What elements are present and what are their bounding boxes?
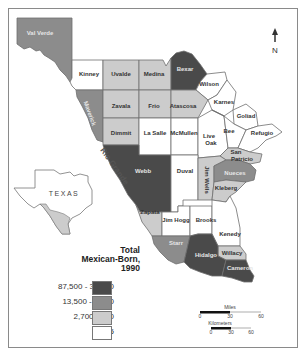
label-atascosa: Atascosa [170,103,197,109]
label-jim-hogg: Jim Hogg [162,217,190,223]
label-jim-wells: Jim Wells [204,166,210,194]
label-refugio: Refugio [251,130,274,136]
scale-km-tick-0: 0 [210,329,213,335]
north-label: N [272,46,278,55]
county-cameron[interactable] [222,260,254,282]
label-starr: Starr [169,240,184,246]
label-hidalgo: Hidalgo [195,252,217,258]
label-cameron: Cameron [227,265,253,271]
scale-km-tick-1: 30 [228,329,234,335]
county-map: Val Verde Kinney Uvalde Medina Bexar Wil… [0,0,304,360]
label-san-patricio-2: Patricio [231,156,253,162]
scale-miles-tick-1: 30 [227,313,233,319]
legend-swatch-2 [92,311,112,325]
county-val-verde[interactable] [17,18,72,83]
label-val-verde: Val Verde [27,30,54,36]
legend-swatch-3 [92,326,112,340]
scale-miles-tick-2: 60 [258,313,264,319]
county-duval[interactable] [171,155,198,212]
scale-bar: Miles 0 30 60 Kilometers 0 30 60 [199,304,264,335]
label-live-oak-1: Live [203,133,216,139]
legend-swatch-0 [92,281,112,295]
label-willacy: Willacy [222,250,243,256]
scale-km-tick-2: 60 [248,329,254,335]
label-kinney: Kinney [79,71,100,77]
scale-miles-label: Miles [224,304,236,310]
legend-title: Total Mexican-Born, 1990 [60,246,140,273]
label-karnes: Karnes [214,99,235,105]
label-wilson: Wilson [199,81,219,87]
label-nueces: Nueces [224,170,246,176]
label-live-oak-2: Oak [205,140,217,146]
legend-swatch-1 [92,296,112,310]
label-mcmullen: McMullen [170,130,198,136]
label-san-patricio-1: San [230,149,241,155]
county-la-salle[interactable] [139,118,171,155]
label-brooks: Brooks [196,217,217,223]
texas-inset: TEXAS [14,170,92,234]
label-goliad: Goliad [237,113,256,119]
inset-label: TEXAS [49,190,79,197]
label-kenedy: Kenedy [219,231,241,237]
legend-title-line3: 1990 [60,264,140,273]
north-arrow-icon: N [272,28,278,55]
label-uvalde: Uvalde [111,71,131,77]
scale-km-label: Kilometers [208,320,232,326]
label-kleberg: Kleberg [215,185,238,191]
label-bee: Bee [223,128,235,134]
label-duval: Duval [177,168,194,174]
label-medina: Medina [144,71,165,77]
scale-miles-tick-0: 0 [199,313,202,319]
label-frio: Frio [148,103,160,109]
county-mcmullen[interactable] [171,118,198,155]
label-bexar: Bexar [177,66,194,72]
label-zavala: Zavala [112,103,131,109]
label-zapata: Zapata [140,209,160,215]
label-webb: Webb [135,168,152,174]
label-la-salle: La Salle [144,130,167,136]
label-dimmit: Dimmit [111,130,131,136]
